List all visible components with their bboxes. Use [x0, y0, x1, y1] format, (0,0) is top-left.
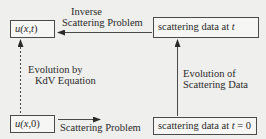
kdv-evolution-label-line2: KdV Equation — [28, 75, 96, 86]
inverse-scattering-label: Inverse Scattering Problem — [62, 6, 143, 28]
node-u-x-t-suffix: ) — [34, 24, 38, 35]
node-scattering-data-t-text: scattering data at — [158, 22, 232, 33]
node-u-x-0: u(x, 0) — [10, 115, 55, 133]
node-u-x-0-suffix: ) — [36, 119, 40, 130]
kdv-evolution-label: Evolution by KdV Equation — [28, 64, 96, 86]
node-scattering-data-t0-tail: = 0 — [235, 121, 251, 132]
forward-scattering-label: Scattering Problem — [60, 122, 141, 133]
scattering-evolution-label-line2: Scattering Data — [183, 79, 248, 90]
node-scattering-data-t: scattering data at t — [153, 17, 259, 38]
inverse-scattering-label-line1: Inverse — [62, 6, 143, 17]
inverse-scattering-label-line2: Scattering Problem — [62, 17, 143, 28]
scattering-evolution-label-line1: Evolution of — [183, 68, 248, 79]
kdv-evolution-label-line1: Evolution by — [28, 64, 96, 75]
node-scattering-data-t0: scattering data at t = 0 — [153, 117, 257, 135]
node-scattering-data-t0-text: scattering data at — [158, 121, 232, 132]
node-u-x-t-prefix: u( — [15, 24, 24, 35]
node-scattering-data-t-var: t — [232, 22, 235, 33]
node-u-x-0-prefix: u( — [15, 119, 24, 130]
node-u-x-t: u(x, t) — [10, 20, 55, 38]
forward-scattering-label-line1: Scattering Problem — [60, 122, 141, 133]
scattering-evolution-label: Evolution of Scattering Data — [183, 68, 248, 90]
